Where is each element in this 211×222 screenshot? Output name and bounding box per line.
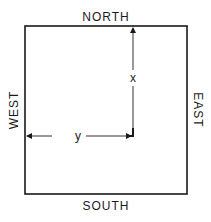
y-variable-label: y [75,129,81,143]
west-label: WEST [7,91,21,130]
room-boundary [25,26,187,194]
x-variable-label: x [130,71,136,85]
south-label: SOUTH [83,199,130,213]
east-label: EAST [191,92,205,127]
coordinate-diagram: x y NORTH SOUTH WEST EAST [0,0,211,222]
north-label: NORTH [82,10,129,24]
point-corner-marker [127,128,133,136]
